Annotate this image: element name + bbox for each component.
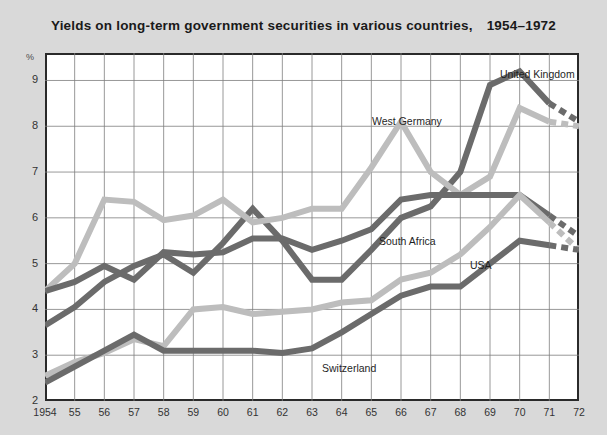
y-tick-5: 5 [12, 257, 38, 269]
chart-figure: Yields on long-term government securitie… [0, 0, 607, 435]
x-tick-72: 72 [573, 406, 585, 418]
x-tick-70: 70 [514, 406, 526, 418]
x-tick-59: 59 [187, 406, 199, 418]
x-tick-68: 68 [454, 406, 466, 418]
y-tick-2: 2 [12, 394, 38, 406]
y-tick-8: 8 [12, 119, 38, 131]
x-tick-63: 63 [306, 406, 318, 418]
x-tick-67: 67 [425, 406, 437, 418]
x-tick-65: 65 [365, 406, 377, 418]
x-tick-60: 60 [217, 406, 229, 418]
y-axis-unit-label: % [26, 52, 34, 62]
x-tick-71: 71 [543, 406, 555, 418]
y-tick-4: 4 [12, 302, 38, 314]
y-tick-9: 9 [12, 73, 38, 85]
plot-area [45, 53, 579, 401]
x-tick-55: 55 [69, 406, 81, 418]
chart-title: Yields on long-term government securitie… [0, 18, 607, 33]
series-label-west-germany: West Germany [372, 115, 442, 127]
y-tick-3: 3 [12, 348, 38, 360]
x-tick-1954: 1954 [33, 406, 56, 418]
y-tick-7: 7 [12, 165, 38, 177]
x-tick-62: 62 [276, 406, 288, 418]
x-tick-69: 69 [484, 406, 496, 418]
data-layer [45, 53, 579, 401]
x-tick-56: 56 [98, 406, 110, 418]
chart-title-years: 1954–1972 [487, 18, 556, 33]
y-tick-6: 6 [12, 211, 38, 223]
x-tick-58: 58 [158, 406, 170, 418]
x-tick-66: 66 [395, 406, 407, 418]
series-label-united-kingdom: United Kingdom [500, 68, 575, 80]
chart-title-text: Yields on long-term government securitie… [51, 18, 473, 33]
x-tick-61: 61 [247, 406, 259, 418]
x-tick-64: 64 [336, 406, 348, 418]
series-label-south-africa: South Africa [379, 235, 436, 247]
series-label-usa: USA [470, 259, 492, 271]
series-label-switzerland: Switzerland [322, 362, 376, 374]
x-tick-57: 57 [128, 406, 140, 418]
